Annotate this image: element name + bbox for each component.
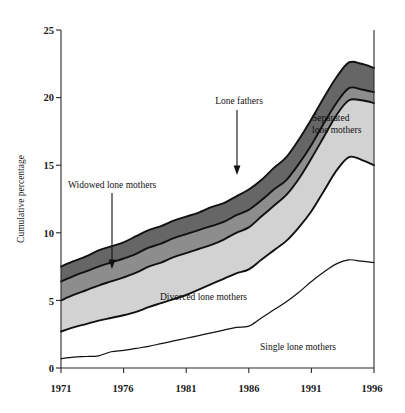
series-label-separated-line2: lone mothers — [312, 125, 362, 135]
y-tick-label-10: 10 — [44, 228, 55, 239]
series-label-divorced: Divorced lone mothers — [160, 292, 247, 302]
y-tick-label-0: 0 — [49, 363, 54, 374]
y-axis-ticks — [56, 30, 61, 368]
series-label-widowed: Widowed lone mothers — [68, 180, 157, 190]
y-tick-label-20: 20 — [44, 92, 55, 103]
area-chart: Cumulative percentage 25 20 15 10 5 0 19… — [0, 0, 405, 413]
series-label-single: Single lone mothers — [260, 342, 336, 352]
x-tick-label-1981: 1981 — [176, 383, 197, 394]
chart-container: Cumulative percentage 25 20 15 10 5 0 19… — [0, 0, 405, 413]
x-tick-label-1971: 1971 — [51, 383, 72, 394]
x-tick-label-1991: 1991 — [301, 383, 322, 394]
x-tick-label-1996: 1996 — [362, 383, 383, 394]
y-tick-label-15: 15 — [44, 160, 55, 171]
y-tick-label-25: 25 — [44, 25, 55, 36]
series-label-lone-fathers: Lone fathers — [215, 96, 263, 106]
y-axis-title: Cumulative percentage — [16, 155, 26, 243]
x-axis-ticks — [61, 368, 374, 373]
y-tick-label-5: 5 — [49, 296, 54, 307]
x-tick-label-1986: 1986 — [239, 383, 260, 394]
x-tick-label-1976: 1976 — [113, 383, 134, 394]
series-label-separated-line1: Separated — [312, 113, 350, 123]
